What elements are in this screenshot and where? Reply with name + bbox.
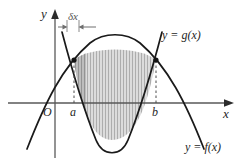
lower-limit-label: a (70, 106, 76, 118)
curve-g-label: y = g(x) (162, 29, 201, 41)
figure-area-between-curves: y x O a b δx y = g(x) y = f(x) (0, 0, 243, 165)
origin-label: O (43, 106, 52, 118)
y-axis-arrowhead (51, 9, 59, 19)
y-axis-label: y (41, 7, 47, 20)
intersection-at-b-dot (153, 57, 158, 62)
x-axis-label: x (223, 107, 229, 120)
delta-x-label: δx (68, 11, 78, 22)
area-between-curves (74, 35, 156, 150)
upper-limit-label: b (152, 106, 158, 118)
curve-f-label: y = f(x) (185, 141, 221, 153)
intersection-at-a-dot (71, 57, 76, 62)
